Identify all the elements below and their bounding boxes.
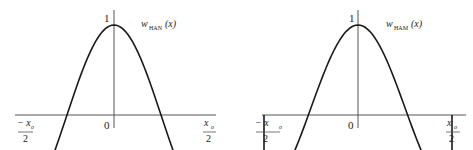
peak-label: 1 <box>104 12 110 24</box>
svg-text:2: 2 <box>206 133 211 144</box>
peak-label: 1 <box>349 12 355 24</box>
svg-text:HAN: HAN <box>149 25 163 31</box>
svg-text:w: w <box>386 18 393 29</box>
left-bound-label: − x o 2 <box>17 117 34 144</box>
svg-text:w: w <box>141 18 148 29</box>
svg-text:x: x <box>446 117 452 128</box>
svg-text:x: x <box>203 117 209 128</box>
svg-text:o: o <box>454 124 457 130</box>
hamming-plot: 1 0 w HAM (x) − x o 2 x o 2 <box>255 10 466 150</box>
svg-text:(x): (x) <box>165 18 177 30</box>
function-label: w HAM (x) <box>386 18 423 31</box>
origin-label: 0 <box>104 119 110 131</box>
svg-text:o: o <box>31 124 34 130</box>
svg-text:− x: − x <box>17 117 31 128</box>
window-functions-diagram: 1 0 w HAN (x) − x o 2 x o 2 1 0 w HAM <box>0 0 473 150</box>
svg-text:o: o <box>211 124 214 130</box>
svg-text:2: 2 <box>23 133 28 144</box>
right-bound-label: x o 2 <box>446 117 460 144</box>
origin-label: 0 <box>348 119 354 131</box>
function-label: w HAN (x) <box>141 18 177 31</box>
svg-text:(x): (x) <box>411 18 423 30</box>
svg-text:2: 2 <box>449 133 454 144</box>
svg-text:2: 2 <box>263 133 268 144</box>
hanning-plot: 1 0 w HAN (x) − x o 2 x o 2 <box>15 10 216 150</box>
right-bound-label: x o 2 <box>203 117 216 144</box>
svg-text:o: o <box>279 124 282 130</box>
svg-text:HAM: HAM <box>394 25 409 31</box>
svg-text:− x: − x <box>255 117 269 128</box>
left-bound-label: − x o 2 <box>255 117 282 144</box>
